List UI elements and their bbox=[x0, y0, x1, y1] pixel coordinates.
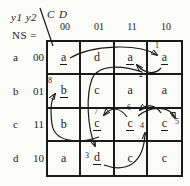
next-state-equals-label: NS = bbox=[12, 29, 37, 41]
transition-number-2: 2 bbox=[139, 71, 143, 79]
kmap-cell-a00: a bbox=[48, 42, 81, 75]
kmap-cell-b00: b bbox=[48, 75, 81, 108]
cell-value: a bbox=[126, 84, 133, 97]
row-code-label: 00 bbox=[33, 51, 44, 63]
column-header-10: 10 bbox=[156, 21, 176, 32]
row-code-label: 10 bbox=[33, 152, 44, 164]
kmap-cell-b11: a bbox=[115, 75, 148, 108]
column-header-11: 11 bbox=[122, 21, 142, 32]
cell-value: c bbox=[93, 84, 100, 97]
transition-number-6: 6 bbox=[127, 104, 131, 112]
kmap-grid: a d a a b c a a b c c c a d c c bbox=[46, 40, 183, 177]
transition-number-7: 7 bbox=[94, 108, 98, 116]
cell-value: a bbox=[161, 84, 168, 97]
row-header-d: d 10 bbox=[13, 152, 44, 164]
cell-value: a bbox=[60, 51, 67, 65]
input-variables-label: C D bbox=[47, 8, 68, 20]
row-state-label: a bbox=[13, 51, 18, 63]
row-header-c: c 11 bbox=[13, 118, 44, 130]
kmap-cell-d11: c bbox=[115, 142, 148, 175]
transition-number-3: 3 bbox=[85, 152, 89, 160]
kmap-cell-a01: d bbox=[81, 42, 114, 75]
cell-value: c bbox=[93, 117, 100, 131]
present-state-variables-label: y1 y2 bbox=[11, 11, 37, 23]
transition-number-5: 5 bbox=[175, 118, 179, 126]
cell-value: c bbox=[161, 117, 168, 131]
transition-number-1: 1 bbox=[155, 42, 159, 50]
kmap-cell-b01: c bbox=[81, 75, 114, 108]
row-code-label: 01 bbox=[33, 85, 44, 97]
row-header-b: b 01 bbox=[13, 85, 44, 97]
cell-value: d bbox=[93, 51, 101, 64]
kmap-cell-a10: a bbox=[148, 42, 181, 75]
cell-value: a bbox=[161, 51, 168, 65]
cell-value: c bbox=[126, 152, 133, 165]
row-state-label: c bbox=[13, 118, 18, 130]
row-state-label: b bbox=[13, 85, 19, 97]
next-state-kmap-figure: y1 y2 C D NS = 00 01 11 10 a 00 b 01 c 1… bbox=[0, 0, 190, 186]
cell-value: a bbox=[60, 152, 67, 165]
kmap-cell-d10: c bbox=[148, 142, 181, 175]
cell-value: a bbox=[126, 51, 133, 65]
row-header-a: a 00 bbox=[13, 51, 44, 63]
transition-number-8: 8 bbox=[48, 77, 52, 85]
cell-value: d bbox=[93, 151, 101, 165]
row-code-label: 11 bbox=[33, 118, 44, 130]
transition-number-4: 4 bbox=[140, 122, 144, 130]
cell-value: c bbox=[126, 117, 133, 131]
kmap-cell-c00: b bbox=[48, 109, 81, 142]
row-state-label: d bbox=[13, 152, 19, 164]
column-header-01: 01 bbox=[89, 21, 109, 32]
kmap-cell-b10: a bbox=[148, 75, 181, 108]
cell-value: b bbox=[60, 84, 68, 98]
column-header-00: 00 bbox=[55, 21, 75, 32]
kmap-cell-d00: a bbox=[48, 142, 81, 175]
cell-value: b bbox=[60, 118, 68, 131]
cell-value: c bbox=[161, 152, 168, 165]
